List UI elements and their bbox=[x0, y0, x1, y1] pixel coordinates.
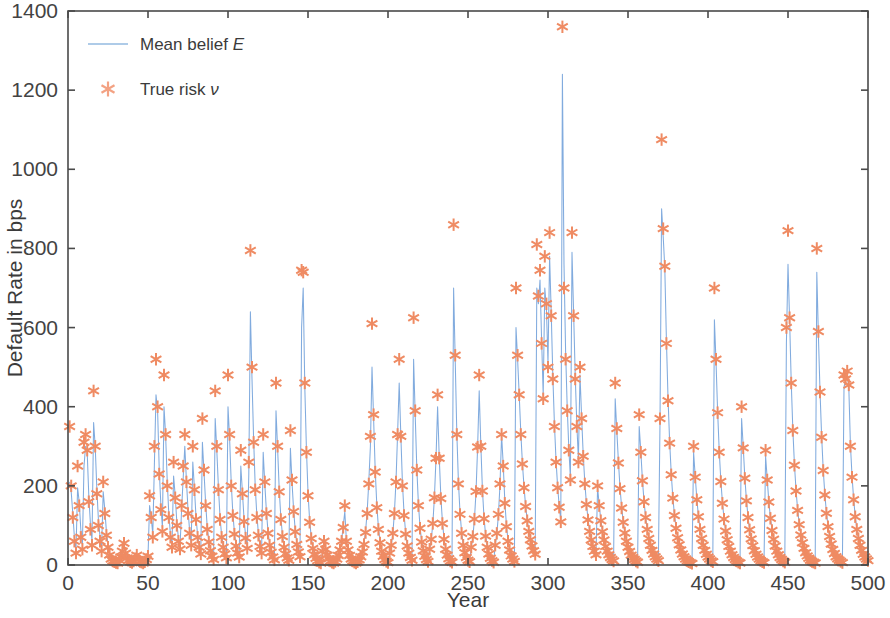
x-tick-label: 0 bbox=[62, 571, 74, 594]
y-tick-label: 600 bbox=[23, 316, 58, 339]
x-tick-label: 350 bbox=[610, 571, 645, 594]
x-tick-label: 150 bbox=[290, 571, 325, 594]
legend-label-true-risk: True risk ν bbox=[140, 80, 219, 99]
y-tick-label: 200 bbox=[23, 474, 58, 497]
y-axis-title: Default Rate in bps bbox=[3, 199, 26, 378]
y-tick-label: 1400 bbox=[11, 0, 58, 22]
x-axis-title: Year bbox=[447, 588, 489, 611]
x-tick-label: 100 bbox=[210, 571, 245, 594]
x-tick-label: 450 bbox=[770, 571, 805, 594]
x-tick-label: 500 bbox=[850, 571, 885, 594]
legend-label-mean-belief: Mean belief E bbox=[140, 35, 245, 54]
y-tick-label: 0 bbox=[46, 553, 58, 576]
x-tick-label: 200 bbox=[370, 571, 405, 594]
y-tick-label: 1000 bbox=[11, 157, 58, 180]
x-tick-label: 50 bbox=[136, 571, 159, 594]
y-tick-label: 800 bbox=[23, 236, 58, 259]
default-rate-chart: 050100150200250300350400450500 020040060… bbox=[0, 0, 890, 618]
y-tick-label: 1200 bbox=[11, 78, 58, 101]
x-tick-label: 300 bbox=[530, 571, 565, 594]
y-tick-label: 400 bbox=[23, 395, 58, 418]
chart-figure: 050100150200250300350400450500 020040060… bbox=[0, 0, 890, 618]
x-tick-label: 400 bbox=[690, 571, 725, 594]
